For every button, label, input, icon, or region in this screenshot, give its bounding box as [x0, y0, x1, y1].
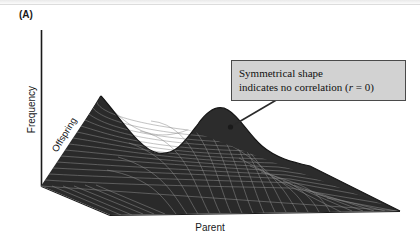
y-axis-label: Frequency	[26, 70, 37, 150]
annotation-callout: Symmetrical shape indicates no correlati…	[231, 60, 406, 101]
annotation-line-2-before: indicates no correlation (	[239, 81, 349, 93]
surface-silhouette	[41, 96, 400, 215]
surface-plot	[0, 0, 420, 239]
x-axis-label: Parent	[170, 222, 250, 233]
annotation-line-2-after: = 0)	[353, 81, 374, 93]
annotation-line-1: Symmetrical shape	[239, 66, 399, 80]
mesh-surface	[41, 96, 400, 215]
callout-leader-dot	[228, 124, 233, 129]
annotation-line-2: indicates no correlation (r = 0)	[239, 80, 399, 94]
figure-panel-a: (A)	[0, 0, 420, 239]
